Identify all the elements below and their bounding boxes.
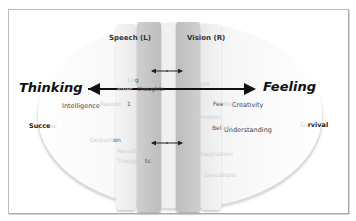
right-col-row5: Imagination <box>197 141 233 160</box>
success-faint-text: ss <box>50 122 56 129</box>
thinking-label: Thinking <box>19 80 83 95</box>
right-col-row6: Sensations <box>204 162 237 181</box>
survival-faint-text: Su <box>300 121 308 128</box>
left-col-row6: Thoughtsts <box>117 148 151 167</box>
success-label: Success <box>29 113 57 132</box>
right-col-row1: Sight <box>194 71 209 90</box>
survival-label: Survival <box>300 112 328 131</box>
left-col-row3: Reason 1 <box>100 91 131 110</box>
arrows-layer <box>0 0 356 221</box>
right-col-row4: Beliefs <box>212 115 232 134</box>
intelligence-label: Intelligence <box>62 102 100 110</box>
feeling-label: Feeling <box>263 79 316 94</box>
success-text: Succe <box>29 122 50 130</box>
survival-text: rvival <box>308 121 329 129</box>
